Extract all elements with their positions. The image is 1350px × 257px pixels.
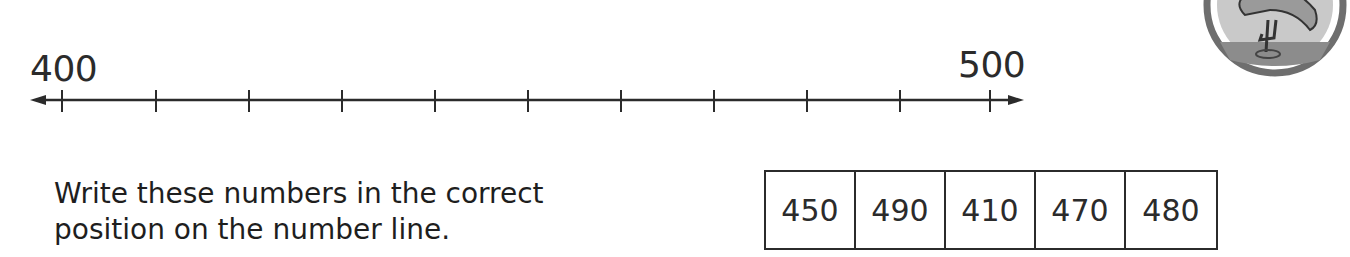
number-cell: 410 [946,172,1036,248]
number-cell: 450 [766,172,856,248]
number-cell: 470 [1036,172,1126,248]
instruction-line-1: Write these numbers in the correct [54,176,544,212]
number-cell: 480 [1126,172,1216,248]
instruction-line-2: position on the number line. [54,212,544,248]
arrow-left-icon [30,95,46,105]
instruction-text: Write these numbers in the correct posit… [54,176,544,248]
flamingo-badge-icon [1200,0,1350,110]
number-line [0,80,1060,120]
numbers-to-place-box: 450 490 410 470 480 [764,170,1218,250]
number-cell: 490 [856,172,946,248]
number-line-end-label: 500 [958,44,1025,85]
arrow-right-icon [1008,95,1024,105]
